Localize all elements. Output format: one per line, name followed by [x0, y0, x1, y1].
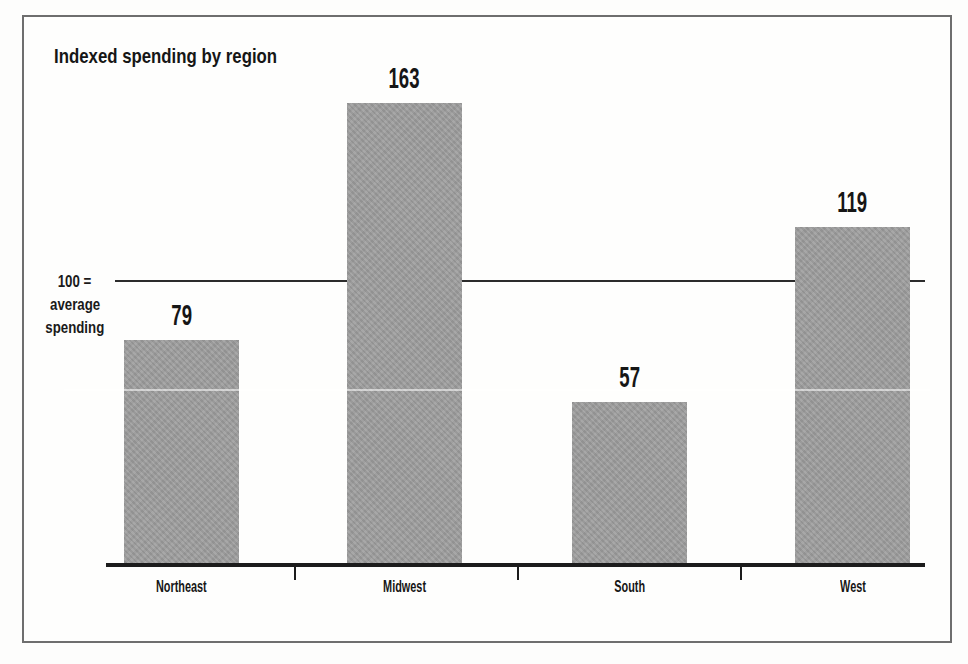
category-label-midwest: Midwest	[347, 577, 462, 597]
category-label-northeast: Northeast	[124, 577, 239, 597]
x-axis-tick-1	[294, 567, 296, 580]
category-label-west: West	[795, 577, 910, 597]
value-label-northeast: 79	[124, 304, 239, 326]
scan-artifact-line	[64, 389, 930, 391]
chart-title-text: Indexed spending by region	[54, 44, 277, 68]
chart-frame: Indexed spending by region 100 = average…	[22, 15, 952, 643]
x-axis-line	[106, 563, 925, 567]
bar-northeast	[124, 340, 239, 565]
x-axis-tick-3	[740, 567, 742, 580]
reference-line-label: 100 = average spending	[36, 270, 114, 339]
value-label-south: 57	[572, 366, 687, 388]
bar-midwest	[347, 103, 462, 565]
chart-title: Indexed spending by region	[54, 44, 333, 68]
bar-south	[572, 402, 687, 565]
reference-label-line-1: 100 =	[36, 270, 114, 293]
reference-label-line-3: spending	[36, 316, 114, 339]
value-label-midwest: 163	[347, 67, 462, 89]
x-axis-tick-2	[517, 567, 519, 580]
scanned-chart-page: Indexed spending by region 100 = average…	[0, 0, 968, 664]
reference-label-line-2: average	[36, 293, 114, 316]
category-label-south: South	[572, 577, 687, 597]
bar-west	[795, 227, 910, 565]
value-label-west: 119	[795, 191, 910, 213]
